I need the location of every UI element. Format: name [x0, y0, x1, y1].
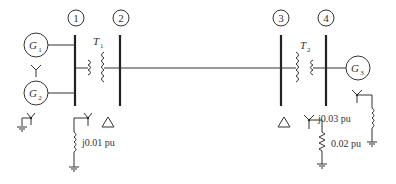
svg-text:G: G	[29, 39, 37, 51]
t1-wye-grounded-reactance: j0.01 pu	[69, 113, 115, 171]
grounded-wye-symbol-g2	[17, 113, 35, 131]
svg-text:T: T	[93, 35, 100, 47]
bus-4-label: 4	[323, 12, 329, 24]
bus-2-label: 2	[118, 12, 124, 24]
t1-neutral-impedance-label: j0.01 pu	[81, 137, 115, 148]
generator-g3: G 3	[326, 56, 370, 80]
svg-text:G: G	[351, 62, 359, 74]
transformer-t2: T 2	[281, 39, 326, 82]
bus-1-label: 1	[73, 12, 79, 24]
svg-text:3: 3	[360, 69, 364, 77]
bus-4-marker: 4	[318, 10, 334, 26]
transformer-t1: T 1	[75, 35, 120, 82]
generator-g1: G 1	[24, 33, 75, 57]
svg-text:1: 1	[100, 42, 104, 50]
svg-text:T: T	[300, 39, 307, 51]
bus-2-marker: 2	[113, 10, 129, 26]
delta-symbol-t1	[102, 117, 114, 127]
t2-neutral-impedance-label: 0.02 pu	[331, 138, 361, 149]
wye-symbol-g1	[31, 65, 41, 77]
g3-neutral-impedance-label: j0.03 pu	[317, 113, 351, 124]
svg-text:G: G	[29, 87, 37, 99]
bus-3-label: 3	[278, 12, 284, 24]
svg-text:1: 1	[38, 46, 42, 54]
bus-3-marker: 3	[273, 10, 289, 26]
generator-g2: G 2	[24, 81, 75, 105]
bus-1-marker: 1	[68, 10, 84, 26]
svg-text:2: 2	[38, 94, 42, 102]
power-system-one-line-diagram: 1 2 3 4 G 1 G 2	[0, 0, 396, 184]
svg-text:2: 2	[307, 46, 311, 54]
delta-symbol-t2	[278, 117, 290, 127]
